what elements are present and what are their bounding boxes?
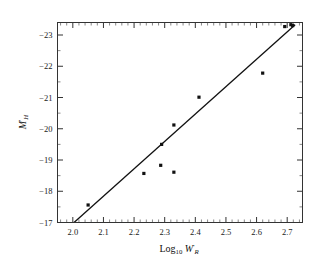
data-point [172,171,175,174]
data-point [160,143,163,146]
y-tick-label: −20 [39,124,52,134]
data-point [197,96,200,99]
x-tick-label: 2.0 [68,227,79,237]
x-tick-label: 2.1 [98,227,109,237]
data-point [142,172,145,175]
y-tick-label: −22 [39,61,52,71]
y-tick-label: −18 [39,186,52,196]
y-tick-label: −19 [39,155,52,165]
data-point [261,72,264,75]
chart-figure: 2.02.12.22.32.42.52.62.7−23−22−21−20−19−… [0,0,322,267]
x-tick-label: 2.4 [190,227,201,237]
y-tick-label: −23 [39,30,52,40]
data-point [172,123,175,126]
x-tick-label: 2.6 [251,227,262,237]
x-tick-label: 2.7 [282,227,293,237]
x-tick-label: 2.2 [129,227,140,237]
x-tick-label: 2.3 [159,227,170,237]
y-tick-label: −21 [39,93,52,103]
scatter-plot: 2.02.12.22.32.42.52.62.7−23−22−21−20−19−… [0,0,322,267]
data-point [159,164,162,167]
y-tick-label: −17 [39,218,52,228]
x-tick-label: 2.5 [221,227,232,237]
data-point [283,25,286,28]
data-point [291,24,294,27]
data-point [87,203,90,206]
